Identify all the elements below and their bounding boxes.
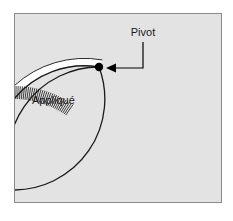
- applique-pivot-diagram: Pivot Appliqué: [0, 0, 233, 221]
- stitch-line: [18, 86, 19, 99]
- figure-root: Pivot Appliqué: [0, 0, 233, 221]
- applique-label: Appliqué: [32, 94, 75, 106]
- diagram-panel: [15, 14, 222, 203]
- pivot-label: Pivot: [131, 26, 155, 38]
- pivot-dot: [95, 63, 103, 71]
